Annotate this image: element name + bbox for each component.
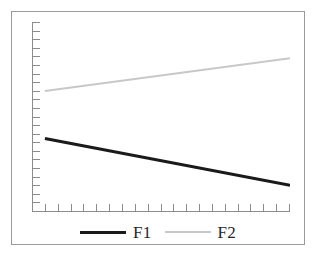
legend-label-f2: F2	[218, 224, 237, 241]
legend-swatch-f2	[165, 231, 211, 233]
legend-entry-f1: F1	[80, 224, 152, 241]
legend-entry-f2: F2	[165, 224, 237, 241]
plot-area	[32, 22, 290, 212]
chart-figure-frame: F1 F2	[11, 11, 305, 245]
series-layer	[32, 22, 290, 212]
legend-label-f1: F1	[133, 224, 152, 241]
series-line-f2	[45, 58, 290, 91]
chart-legend: F1 F2	[12, 218, 304, 246]
series-line-f1	[45, 139, 290, 186]
legend-swatch-f1	[80, 231, 126, 234]
